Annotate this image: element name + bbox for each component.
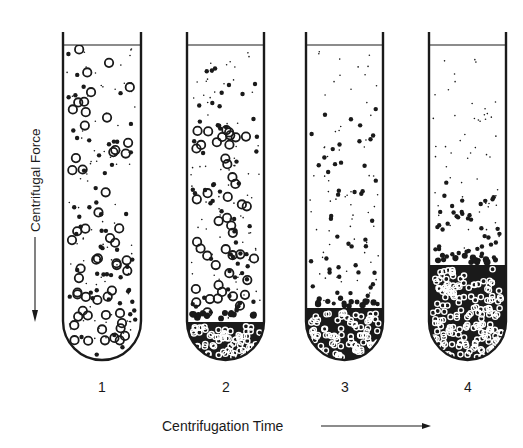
- tube-label: 3: [341, 379, 349, 395]
- centrifugation-diagram: 1234 Centrifugal Force Centrifugation Ti…: [0, 0, 523, 448]
- tube-3: 3: [306, 32, 383, 395]
- tube-contents: [187, 52, 264, 362]
- tube-1: 1: [63, 32, 141, 395]
- tube-wall: [63, 32, 141, 360]
- tube-label: 4: [464, 379, 472, 395]
- y-axis-label: Centrifugal Force: [28, 128, 43, 232]
- tubes-group: 1234: [63, 32, 506, 395]
- tube-contents: [429, 59, 506, 362]
- right-arrow-icon: [422, 423, 431, 429]
- x-axis-label: Centrifugation Time: [162, 418, 284, 434]
- tube-contents: [66, 45, 138, 357]
- tube-label: 1: [98, 379, 106, 395]
- tube-4: 4: [429, 32, 506, 395]
- y-axis: Centrifugal Force: [28, 128, 43, 322]
- tube-label: 2: [222, 379, 230, 395]
- x-axis: Centrifugation Time: [162, 418, 431, 434]
- tube-contents: [306, 51, 383, 362]
- tube-2: 2: [187, 32, 264, 395]
- down-arrow-icon: [32, 310, 38, 322]
